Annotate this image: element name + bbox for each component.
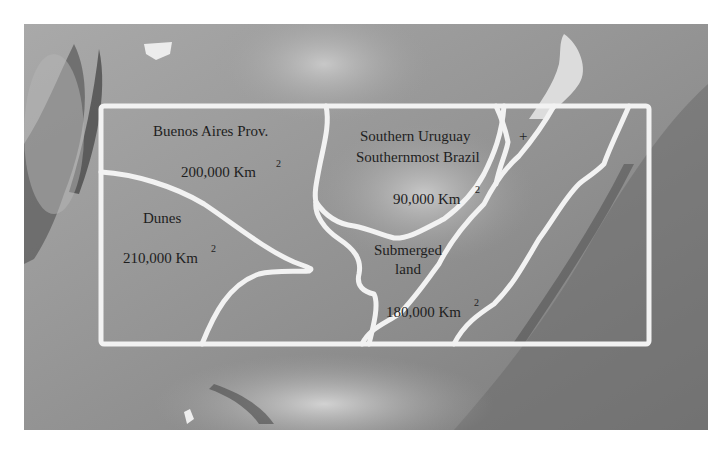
region-area-buenos-aires: 200,000 Km: [181, 163, 256, 182]
region-name-submerged: Submerged land: [358, 241, 458, 279]
region-name-uruguay: Southern Uruguay: [360, 127, 470, 146]
relief-map: Buenos Aires Prov. 200,000 Km 2 Southern…: [24, 24, 708, 430]
region-name-submerged-line2: land: [358, 260, 458, 279]
area-superscript: 2: [211, 243, 216, 254]
region-name-submerged-line1: Submerged: [358, 241, 458, 260]
region-name-buenos-aires: Buenos Aires Prov.: [153, 122, 268, 141]
area-superscript: 2: [474, 297, 479, 308]
region-area-uruguay: 90,000 Km: [393, 190, 461, 209]
area-superscript: 2: [475, 184, 480, 195]
region-area-submerged: 180,000 Km: [386, 303, 461, 322]
region-name-brazil: Southernmost Brazil: [356, 148, 480, 167]
region-name-dunes: Dunes: [143, 209, 181, 228]
region-area-dunes: 210,000 Km: [123, 249, 198, 268]
region-plus-sign: +: [519, 127, 527, 146]
area-superscript: 2: [276, 158, 281, 169]
relief-background: [24, 24, 708, 430]
